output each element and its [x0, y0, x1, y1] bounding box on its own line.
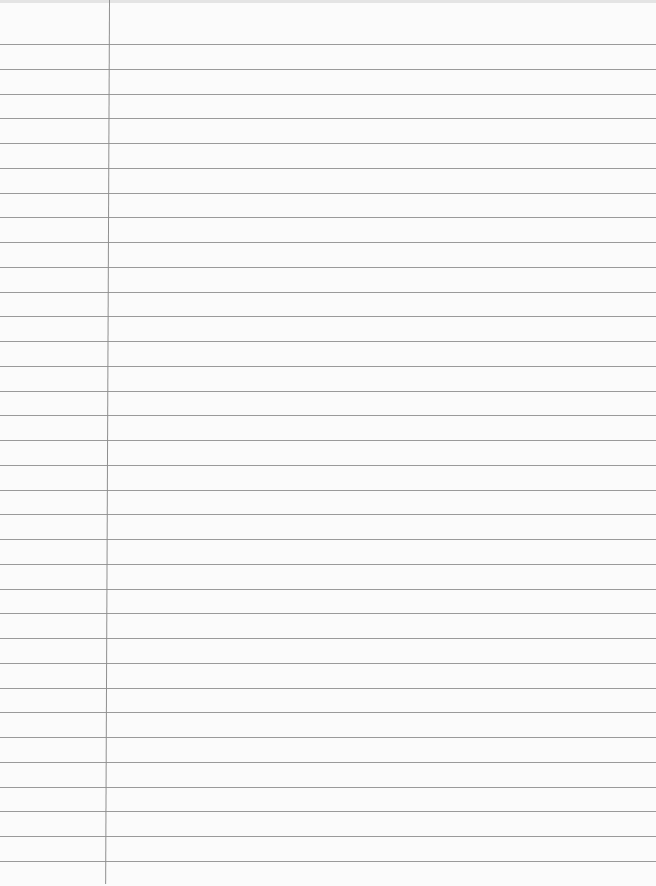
ruled-line	[0, 514, 656, 515]
ruled-line	[0, 267, 656, 268]
ruled-line	[0, 217, 656, 218]
ruled-line	[0, 465, 656, 466]
ruled-line	[0, 762, 656, 763]
ruled-line	[0, 613, 656, 614]
ruled-line	[0, 94, 656, 95]
ruled-line	[0, 564, 656, 565]
ruled-line	[0, 589, 656, 590]
ruled-line	[0, 638, 656, 639]
ruled-line	[0, 539, 656, 540]
ruled-line	[0, 787, 656, 788]
ruled-line	[0, 143, 656, 144]
ruled-line	[0, 69, 656, 70]
ruled-line	[0, 391, 656, 392]
ruled-line	[0, 118, 656, 119]
ruled-line	[0, 242, 656, 243]
ruled-line	[0, 316, 656, 317]
ruled-line	[0, 341, 656, 342]
ruled-line	[0, 292, 656, 293]
ruled-line	[0, 168, 656, 169]
ruled-line	[0, 861, 656, 862]
ruled-line	[0, 712, 656, 713]
ruled-line	[0, 44, 656, 45]
ruled-line	[0, 415, 656, 416]
margin-line	[105, 0, 110, 884]
ruled-line	[0, 737, 656, 738]
ruled-line	[0, 193, 656, 194]
ruled-line	[0, 811, 656, 812]
ruled-line	[0, 366, 656, 367]
ruled-line	[0, 688, 656, 689]
ruled-line	[0, 663, 656, 664]
paper-top-edge	[0, 0, 656, 3]
ruled-line	[0, 836, 656, 837]
ruled-line	[0, 440, 656, 441]
ruled-line	[0, 490, 656, 491]
